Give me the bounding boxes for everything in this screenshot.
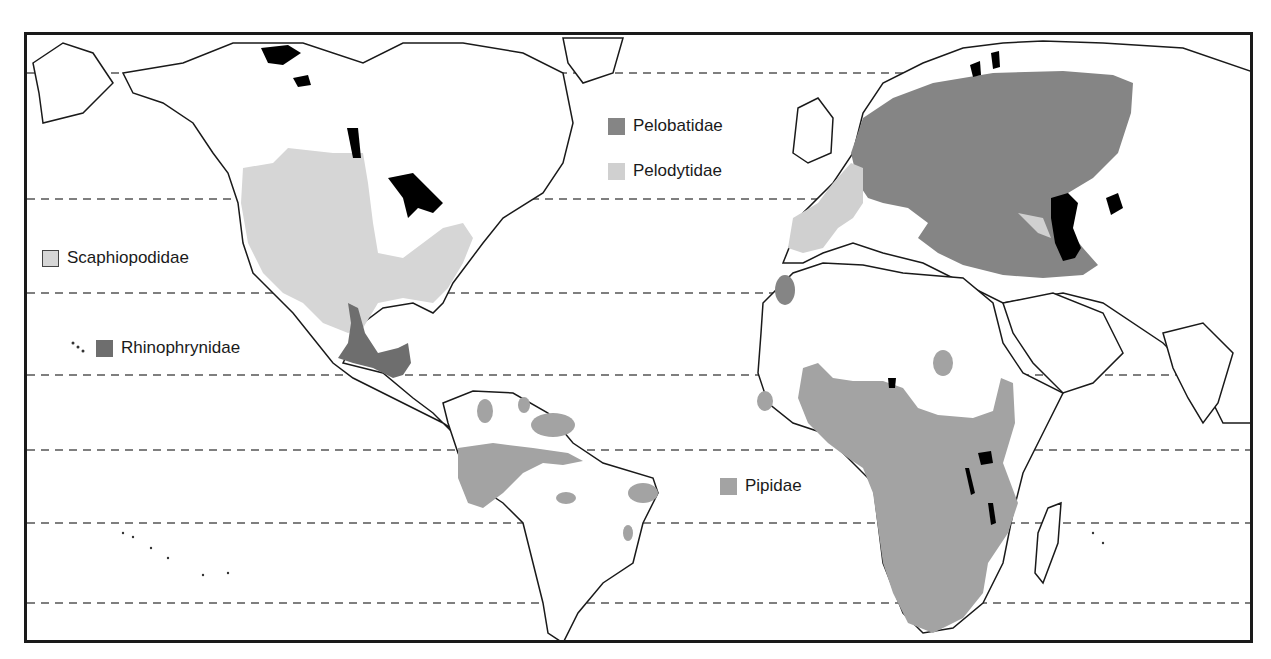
legend-label: Scaphiopodidae (67, 248, 189, 268)
pipidae-swatch (720, 478, 737, 495)
legend-item-pipidae: Pipidae (720, 476, 802, 496)
legend-item-scaphiopodidae: Scaphiopodidae (42, 248, 189, 268)
legend-label: Pelodytidae (633, 161, 722, 181)
legend-label: Pipidae (745, 476, 802, 496)
rhinophrynidae-swatch (96, 340, 113, 357)
scaphiopodidae-swatch (42, 250, 59, 267)
pelobatidae-swatch (608, 118, 625, 135)
legend-label: Rhinophrynidae (121, 338, 240, 358)
legend-item-pelobatidae: Pelobatidae (608, 116, 723, 136)
legend-label: Pelobatidae (633, 116, 723, 136)
legend-item-rhinophrynidae: Rhinophrynidae (96, 338, 240, 358)
pelodytidae-swatch (608, 163, 625, 180)
legend-item-pelodytidae: Pelodytidae (608, 161, 722, 181)
